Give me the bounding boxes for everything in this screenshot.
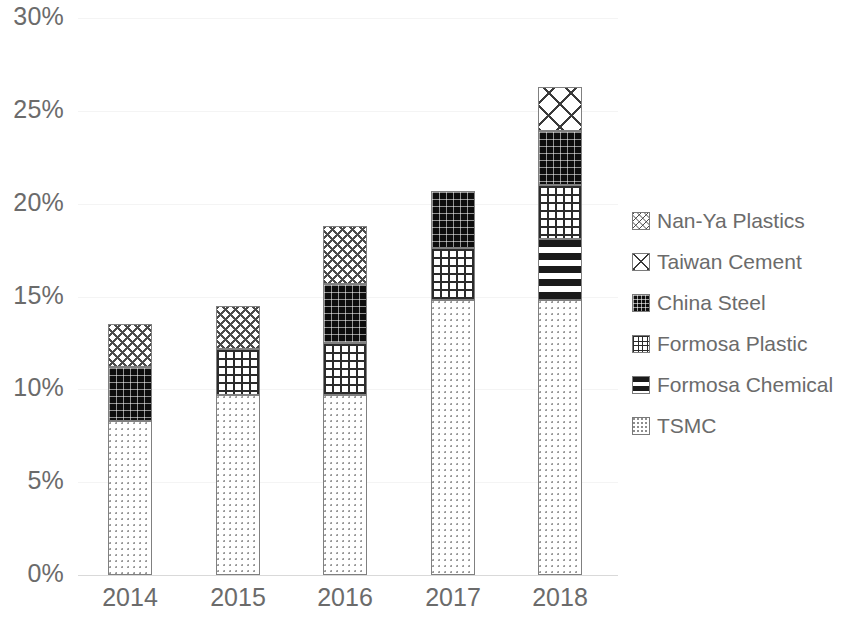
bar-segment-2015-formosa-plastic[interactable]: [216, 349, 260, 395]
chart-legend: Nan-Ya PlasticsTaiwan CementChina SteelF…: [632, 200, 842, 446]
legend-swatch-icon: [632, 253, 650, 271]
bar-stack: [108, 324, 152, 575]
legend-item-label: China Steel: [657, 292, 766, 313]
bar-segment-2015-nan-ya-plastics[interactable]: [216, 306, 260, 349]
legend-item-china-steel[interactable]: China Steel: [632, 282, 842, 323]
legend-item-formosa-plastic[interactable]: Formosa Plastic: [632, 323, 842, 364]
bar-stack: [538, 89, 582, 575]
bar-group-2016[interactable]: [323, 226, 367, 575]
legend-item-tsmc[interactable]: TSMC: [632, 405, 842, 446]
legend-item-label: Formosa Plastic: [657, 333, 808, 354]
y-tick-label-15: 15%: [13, 283, 64, 308]
x-tick-label-2016: 2016: [285, 582, 405, 612]
bar-segment-2016-nan-ya-plastics[interactable]: [323, 226, 367, 284]
bar-group-2014[interactable]: [108, 324, 152, 575]
legend-swatch-icon: [632, 376, 650, 394]
y-tick-label-10: 10%: [13, 375, 64, 400]
bar-group-2018[interactable]: [538, 89, 582, 575]
bar-segment-2017-formosa-plastic[interactable]: [431, 248, 475, 300]
bar-segment-2018-tsmc[interactable]: [538, 300, 582, 575]
bar-stack: [431, 191, 475, 575]
y-tick-label-20: 20%: [13, 190, 64, 215]
y-axis: 0%5%10%15%20%25%30%: [0, 0, 72, 618]
y-tick-label-0: 0%: [27, 561, 64, 586]
bar-segment-2014-tsmc[interactable]: [108, 421, 152, 575]
bar-segment-2014-nan-ya-plastics[interactable]: [108, 324, 152, 367]
legend-item-taiwan-cement[interactable]: Taiwan Cement: [632, 241, 842, 282]
x-tick-label-2015: 2015: [178, 582, 298, 612]
bar-segment-2016-formosa-plastic[interactable]: [323, 343, 367, 395]
bar-segment-2017-china-steel[interactable]: [431, 191, 475, 249]
bar-segment-2015-tsmc[interactable]: [216, 395, 260, 575]
legend-swatch-icon: [632, 212, 650, 230]
bar-stack: [323, 226, 367, 575]
bar-segment-2018-formosa-chemical[interactable]: [538, 239, 582, 300]
legend-item-nan-ya-plastics[interactable]: Nan-Ya Plastics: [632, 200, 842, 241]
bar-segment-2018-china-steel[interactable]: [538, 131, 582, 185]
bar-stack: [216, 306, 260, 575]
x-tick-label-2018: 2018: [500, 582, 620, 612]
bar-segment-2016-tsmc[interactable]: [323, 395, 367, 575]
bar-segment-2014-china-steel[interactable]: [108, 367, 152, 421]
bar-segment-2017-tsmc[interactable]: [431, 300, 475, 575]
y-tick-label-25: 25%: [13, 97, 64, 122]
x-tick-label-2014: 2014: [70, 582, 190, 612]
legend-swatch-icon: [632, 335, 650, 353]
bar-group-2015[interactable]: [216, 306, 260, 575]
y-tick-label-30: 30%: [13, 4, 64, 29]
legend-item-label: Nan-Ya Plastics: [657, 210, 805, 231]
x-tick-label-2017: 2017: [393, 582, 513, 612]
bar-segment-2018-formosa-plastic[interactable]: [538, 185, 582, 239]
plot-area: [78, 0, 618, 618]
legend-item-label: Formosa Chemical: [657, 374, 833, 395]
legend-item-formosa-chemical[interactable]: Formosa Chemical: [632, 364, 842, 405]
bar-segment-2018-taiwan-cement[interactable]: [538, 87, 582, 132]
legend-item-label: Taiwan Cement: [657, 251, 802, 272]
legend-item-label: TSMC: [657, 415, 717, 436]
legend-swatch-icon: [632, 417, 650, 435]
bar-group-2017[interactable]: [431, 191, 475, 575]
legend-swatch-icon: [632, 294, 650, 312]
x-axis: 20142015201620172018: [78, 582, 618, 618]
y-tick-label-5: 5%: [27, 468, 64, 493]
bar-segment-2016-china-steel[interactable]: [323, 284, 367, 343]
stacked-column-chart: 0%5%10%15%20%25%30% 20142015201620172018…: [0, 0, 842, 618]
